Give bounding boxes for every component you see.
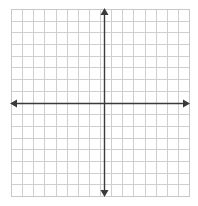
grid-lines [11,9,189,196]
coordinate-grid-svg [0,0,198,206]
arrow-right-icon [183,100,190,108]
coordinate-plane [0,0,198,206]
arrow-down-icon [101,190,109,197]
